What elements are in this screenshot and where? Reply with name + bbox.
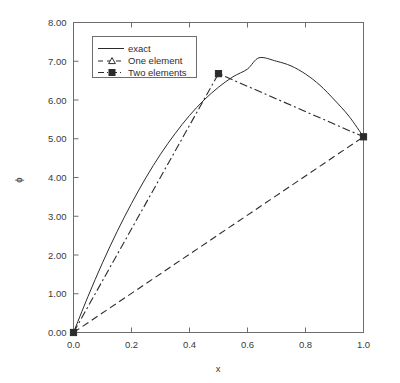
- y-tick-label: 0.00: [48, 327, 67, 338]
- x-tick-label: 0.0: [67, 339, 80, 350]
- x-tick-label: 1.0: [357, 339, 370, 350]
- chart-legend: exactOne elementTwo elements: [93, 37, 197, 78]
- x-tick-label: 0.8: [299, 339, 312, 350]
- legend-marker-square-icon: [109, 70, 115, 76]
- y-tick-label: 6.00: [48, 95, 67, 106]
- data-point-marker: [215, 71, 221, 77]
- y-tick-label: 8.00: [48, 17, 67, 28]
- y-axis-title: ϕ: [13, 177, 24, 182]
- x-tick-label: 0.6: [241, 339, 254, 350]
- x-tick-label: 0.2: [125, 339, 138, 350]
- y-tick-label: 2.00: [48, 250, 67, 261]
- y-tick-label: 5.00: [48, 133, 67, 144]
- y-tick-label: 7.00: [48, 56, 67, 67]
- data-point-marker: [70, 329, 76, 335]
- legend-label: One element: [128, 55, 183, 66]
- line-chart: 0.00.20.40.60.81.0 0.001.002.003.004.005…: [0, 0, 400, 383]
- x-tick-label: 0.4: [183, 339, 196, 350]
- y-tick-label: 1.00: [48, 288, 67, 299]
- data-point-marker: [360, 134, 366, 140]
- x-axis-title: x: [216, 363, 221, 374]
- y-axis-tick-labels: 0.001.002.003.004.005.006.007.008.00: [48, 17, 67, 338]
- chart-figure: 0.00.20.40.60.81.0 0.001.002.003.004.005…: [0, 0, 400, 383]
- legend-label: Two elements: [128, 67, 187, 78]
- legend-label: exact: [128, 43, 151, 54]
- y-tick-label: 3.00: [48, 211, 67, 222]
- y-tick-label: 4.00: [48, 172, 67, 183]
